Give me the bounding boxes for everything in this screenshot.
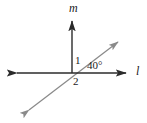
label-angle-40-degrees: 40° [87,60,102,71]
label-line-m: m [69,2,78,14]
label-angle-1: 1 [75,55,81,66]
label-angle-2: 2 [73,76,79,87]
geometry-canvas [0,0,147,123]
geometry-diagram: m l 1 2 40° [0,0,147,123]
label-line-l: l [136,65,139,77]
